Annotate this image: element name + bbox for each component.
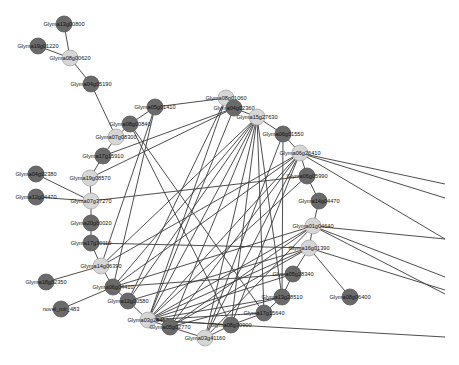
node-label: Glyma19g08570 (69, 175, 110, 181)
node-label: Glyma17g15910 (82, 153, 123, 159)
node-glyma12g04470[interactable]: Glyma12g04470 (15, 189, 56, 205)
node-label: Glyma08g00840 (109, 121, 150, 127)
node-glyma05g28340[interactable]: Glyma05g28340 (272, 266, 313, 282)
node-label: Glyma16g01390 (288, 245, 329, 251)
node-label: Glyma13g28510 (261, 294, 302, 300)
edge-n23-n29 (309, 248, 350, 297)
node-label: Glyma17g15640 (243, 310, 284, 316)
edge-n4-n11 (91, 84, 116, 137)
node-label: Glyma07g37270 (70, 198, 111, 204)
node-label: Glyma08g06400 (329, 294, 370, 300)
node-glyma13g00800[interactable]: Glyma13g00800 (43, 16, 84, 32)
edge-n14-n18 (91, 176, 307, 201)
edge-n23-n22 (91, 243, 309, 248)
node-glyma16g01390[interactable]: Glyma16g01390 (288, 240, 329, 256)
node-glyma13g28510[interactable]: Glyma13g28510 (261, 289, 302, 305)
node-label: Glyma01g04640 (292, 223, 333, 229)
node-label: Glyma19g01220 (17, 43, 58, 49)
node-label: Glyma06g05990 (286, 173, 327, 179)
node-label: Glyma06g26410 (279, 150, 320, 156)
node-label: Glyma03g28450 (127, 317, 168, 323)
node-label: Glyma12g00580 (107, 298, 148, 304)
node-glyma14g04470[interactable]: Glyma14g04470 (298, 193, 339, 209)
node-label: Glyma04g02360 (213, 105, 254, 111)
node-glyma04g02380[interactable]: Glyma04g02380 (15, 166, 56, 182)
edge-n7-n33 (148, 108, 234, 320)
node-label: Glyma13g00800 (43, 21, 84, 27)
node-glyma17g30110[interactable]: Glyma17g30110 (71, 235, 112, 251)
node-label: Glyma20g00020 (70, 220, 111, 226)
node-label: Glyma05g28340 (272, 271, 313, 277)
node-label: Glyma04g05190 (70, 81, 111, 87)
edge-offscreen-0 (300, 153, 445, 184)
network-diagram: Glyma13g00800Glyma19g01220Glyma08g00620G… (0, 0, 459, 365)
node-label: novel_mir_483 (43, 306, 80, 312)
node-glyma20g00020[interactable]: Glyma20g00020 (70, 215, 111, 231)
node-label: Glyma17g30110 (71, 240, 112, 246)
node-label: Glyma14g04470 (298, 198, 339, 204)
node-glyma14g06390[interactable]: Glyma14g06390 (80, 258, 121, 274)
node-label: Glyma14g06390 (80, 263, 121, 269)
edge-n8-n36 (205, 117, 257, 338)
edge-offscreen-6 (313, 226, 445, 294)
node-glyma06g26410[interactable]: Glyma06g26410 (279, 145, 320, 161)
node-glyma12g00580[interactable]: Glyma12g00580 (107, 293, 148, 309)
node-glyma08g06400[interactable]: Glyma08g06400 (329, 289, 370, 305)
node-label: Glyma15g27630 (236, 114, 277, 120)
node-label: Glyma06g04410 (92, 284, 133, 290)
node-label: Glyma08g30900 (210, 322, 251, 328)
node-label: Glyma06g01550 (262, 131, 303, 137)
node-label: Glyma05g01410 (134, 104, 175, 110)
node-label: Glyma08g01060 (205, 95, 246, 101)
node-glyma04g05190[interactable]: Glyma04g05190 (70, 76, 111, 92)
node-label: Glyma03g41160 (185, 335, 226, 341)
node-glyma18g02350[interactable]: Glyma18g02350 (25, 274, 66, 290)
node-label: Glyma04g02380 (15, 171, 56, 177)
node-label: Glyma05g02770 (149, 324, 190, 330)
edge-n23-n33 (148, 248, 309, 320)
node-label: Glyma08g00620 (49, 55, 90, 61)
node-label: Glyma07g08300 (95, 134, 136, 140)
node-glyma05g01410[interactable]: Glyma05g01410 (134, 99, 175, 115)
node-label: Glyma12g04470 (15, 194, 56, 200)
node-glyma03g41160[interactable]: Glyma03g41160 (185, 330, 226, 346)
node-label: Glyma18g02350 (25, 279, 66, 285)
node-glyma06g01550[interactable]: Glyma06g01550 (262, 126, 303, 142)
node-glyma07g37270[interactable]: Glyma07g37270 (70, 193, 111, 209)
edge-n10-n34 (130, 124, 231, 325)
node-glyma19g08570[interactable]: Glyma19g08570 (69, 170, 110, 186)
